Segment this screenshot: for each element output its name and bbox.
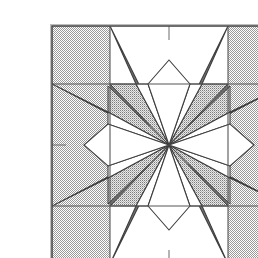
corner-square-bottom-right: [228, 206, 258, 258]
corner-square-top-right: [228, 26, 258, 84]
corner-square-top-left: [52, 26, 110, 84]
quilt-block-drawing: [40, 16, 258, 258]
corner-square-bottom-left: [52, 206, 110, 258]
quilt-block-figure: Square patchwork block drawn as a line d…: [40, 16, 258, 258]
